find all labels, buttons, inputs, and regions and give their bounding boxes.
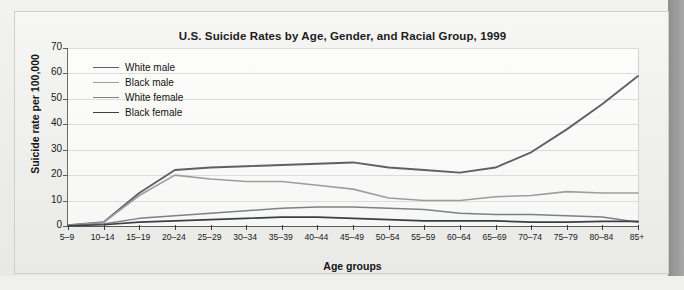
series-line	[68, 217, 638, 226]
x-axis-tick-label: 65–69	[478, 232, 512, 242]
x-axis-tick-label: 80–84	[584, 232, 618, 242]
x-axis-tick-label: 5–9	[50, 232, 84, 242]
page-edge-shadow	[668, 0, 684, 276]
legend-item-label: Black male	[125, 77, 174, 88]
x-axis-tick-label: 60–64	[442, 232, 476, 242]
legend-item: White male	[93, 60, 183, 75]
y-axis-tick-label: 70	[34, 41, 62, 52]
legend-swatch-icon	[93, 97, 119, 98]
x-axis-tick-label: 85+	[620, 232, 654, 242]
x-axis-tick-label: 70–74	[513, 232, 547, 242]
legend-swatch-icon	[93, 67, 119, 68]
y-axis-tick-label: 30	[34, 143, 62, 154]
x-axis-tick-label: 10–14	[86, 232, 120, 242]
page-bottom-margin	[0, 276, 684, 290]
y-axis-tick-label: 0	[34, 219, 62, 230]
y-axis-tick-label: 60	[34, 66, 62, 77]
x-axis-tick-label: 30–34	[228, 232, 262, 242]
legend-swatch-icon	[93, 112, 119, 113]
y-axis-tick-label: 20	[34, 168, 62, 179]
legend-item-label: Black female	[125, 107, 182, 118]
legend-item: Black male	[93, 75, 183, 90]
x-axis-tick-label: 45–49	[335, 232, 369, 242]
legend-swatch-icon	[93, 82, 119, 83]
y-axis-tick-label: 40	[34, 117, 62, 128]
chart-legend: White maleBlack maleWhite femaleBlack fe…	[93, 60, 183, 120]
x-axis-tick-label: 55–59	[406, 232, 440, 242]
x-axis-tick-label: 25–29	[193, 232, 227, 242]
legend-item-label: White female	[125, 92, 183, 103]
x-axis-title: Age groups	[67, 260, 638, 272]
x-axis-tick-label: 75–79	[549, 232, 583, 242]
figure-frame: U.S. Suicide Rates by Age, Gender, and R…	[14, 11, 669, 274]
x-axis-tick-label: 15–19	[121, 232, 155, 242]
x-axis-tick-label: 20–24	[157, 232, 191, 242]
y-axis-tick-label: 10	[34, 194, 62, 205]
x-axis-tick-label: 50–54	[371, 232, 405, 242]
legend-item: Black female	[93, 105, 183, 120]
legend-item-label: White male	[125, 62, 175, 73]
y-axis-tick-label: 50	[34, 92, 62, 103]
x-axis-tick-label: 35–39	[264, 232, 298, 242]
x-axis-tick-label: 40–44	[299, 232, 333, 242]
chart-title: U.S. Suicide Rates by Age, Gender, and R…	[15, 30, 670, 42]
legend-item: White female	[93, 90, 183, 105]
